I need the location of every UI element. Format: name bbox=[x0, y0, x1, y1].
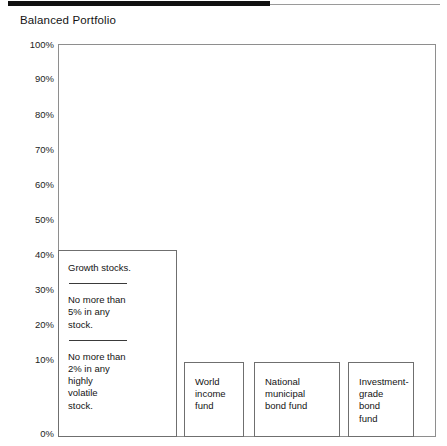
bar-investment-grade-bond-fund[interactable]: Investment- grade bond fund bbox=[348, 362, 414, 437]
y-axis-tick-40: 40% bbox=[0, 250, 54, 260]
bar-growth-stocks[interactable]: Growth stocks. No more than 5% in any st… bbox=[58, 250, 177, 437]
bar-1-segment-2: No more than 5% in any stock. bbox=[68, 294, 167, 331]
y-axis-tick-90: 90% bbox=[0, 74, 54, 84]
y-axis-tick-80: 80% bbox=[0, 110, 54, 120]
y-axis-tick-60: 60% bbox=[0, 180, 54, 190]
balanced-portfolio-chart: 100% 90% 80% 70% 60% 50% 40% 30% 20% 10%… bbox=[0, 0, 447, 446]
y-axis-tick-10: 10% bbox=[0, 355, 54, 365]
y-axis-tick-0: 0% bbox=[0, 429, 54, 439]
y-axis-tick-100: 100% bbox=[0, 40, 54, 50]
bar-1-segment-3: No more than 2% in any highly volatile s… bbox=[68, 351, 167, 412]
y-axis-tick-20: 20% bbox=[0, 320, 54, 330]
y-axis-tick-30: 30% bbox=[0, 285, 54, 295]
bar-3-label: National municipal bond fund bbox=[265, 376, 331, 413]
bar-4-label: Investment- grade bond fund bbox=[359, 376, 405, 425]
y-axis-tick-70: 70% bbox=[0, 145, 54, 155]
bar-1-segment-1: Growth stocks. bbox=[68, 262, 167, 274]
bar-1-divider-1 bbox=[69, 283, 127, 284]
bar-2-label: World income fund bbox=[195, 376, 235, 413]
bar-1-divider-2 bbox=[69, 340, 127, 341]
bar-world-income-fund[interactable]: World income fund bbox=[184, 362, 244, 437]
bar-national-municipal-bond-fund[interactable]: National municipal bond fund bbox=[254, 362, 340, 437]
y-axis-tick-50: 50% bbox=[0, 215, 54, 225]
